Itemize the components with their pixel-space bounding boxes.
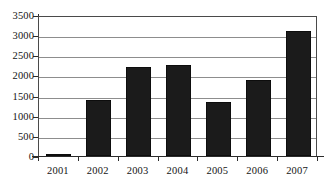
bar-2004[interactable] bbox=[166, 65, 191, 156]
x-tick-label-2005: 2005 bbox=[197, 166, 237, 177]
x-tick-mark-0 bbox=[38, 157, 39, 161]
plot-area bbox=[38, 16, 317, 157]
bars-layer bbox=[39, 17, 316, 156]
y-tick-label-500: 500 bbox=[0, 132, 34, 143]
x-tick-mark-4 bbox=[197, 157, 198, 161]
bar-2003[interactable] bbox=[126, 67, 151, 156]
y-tick-label-2500: 2500 bbox=[0, 51, 34, 62]
x-tick-mark-5 bbox=[237, 157, 238, 161]
x-tick-mark-7 bbox=[317, 157, 318, 161]
y-tick-label-2000: 2000 bbox=[0, 71, 34, 82]
x-tick-mark-1 bbox=[78, 157, 79, 161]
y-tick-label-3000: 3000 bbox=[0, 31, 34, 42]
y-tick-label-0: 0 bbox=[0, 152, 34, 163]
x-tick-label-2006: 2006 bbox=[237, 166, 277, 177]
x-tick-label-2003: 2003 bbox=[118, 166, 158, 177]
bar-2007[interactable] bbox=[286, 31, 311, 156]
x-tick-mark-6 bbox=[277, 157, 278, 161]
x-tick-label-2001: 2001 bbox=[38, 166, 78, 177]
bar-chart: 0500100015002000250030003500 20012002200… bbox=[0, 0, 331, 193]
y-tick-label-3500: 3500 bbox=[0, 11, 34, 22]
y-axis-tick-labels: 0500100015002000250030003500 bbox=[0, 0, 34, 193]
x-axis-tick-labels: 2001200220032004200520062007 bbox=[38, 166, 317, 186]
x-tick-label-2007: 2007 bbox=[277, 166, 317, 177]
y-tick-label-1000: 1000 bbox=[0, 112, 34, 123]
x-tick-mark-3 bbox=[158, 157, 159, 161]
x-tick-label-2004: 2004 bbox=[158, 166, 198, 177]
bar-2002[interactable] bbox=[86, 100, 111, 156]
x-tick-mark-2 bbox=[118, 157, 119, 161]
bar-2005[interactable] bbox=[206, 102, 231, 156]
x-axis-line bbox=[32, 156, 324, 157]
y-tick-label-1500: 1500 bbox=[0, 92, 34, 103]
bar-2006[interactable] bbox=[246, 80, 271, 156]
x-tick-label-2002: 2002 bbox=[78, 166, 118, 177]
